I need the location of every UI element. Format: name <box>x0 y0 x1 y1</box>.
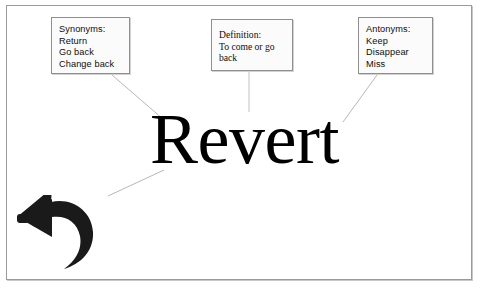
revert-arrow-icon <box>14 195 96 271</box>
callout-synonyms-item-0: Return <box>59 36 129 48</box>
callout-antonyms-item-2: Miss <box>366 59 432 71</box>
page-title: Revert <box>150 99 360 179</box>
callout-antonyms-item-0: Keep <box>366 36 432 48</box>
callout-definition-heading: Definition: <box>219 29 292 41</box>
callout-definition-item-0: To come or go <box>219 41 292 53</box>
callout-synonyms-item-2: Change back <box>59 59 129 71</box>
callout-synonyms[interactable]: Synonyms: Return Go back Change back <box>51 17 130 74</box>
callout-definition[interactable]: Definition: To come or go back <box>211 19 293 71</box>
callout-antonyms[interactable]: Antonyms: Keep Disappear Miss <box>358 17 433 74</box>
word-map-slide: Synonyms: Return Go back Change back Def… <box>0 0 481 294</box>
callout-antonyms-item-1: Disappear <box>366 47 432 59</box>
callout-definition-item-1: back <box>219 52 292 64</box>
callout-synonyms-item-1: Go back <box>59 47 129 59</box>
callout-antonyms-heading: Antonyms: <box>366 24 432 36</box>
callout-synonyms-heading: Synonyms: <box>59 24 129 36</box>
